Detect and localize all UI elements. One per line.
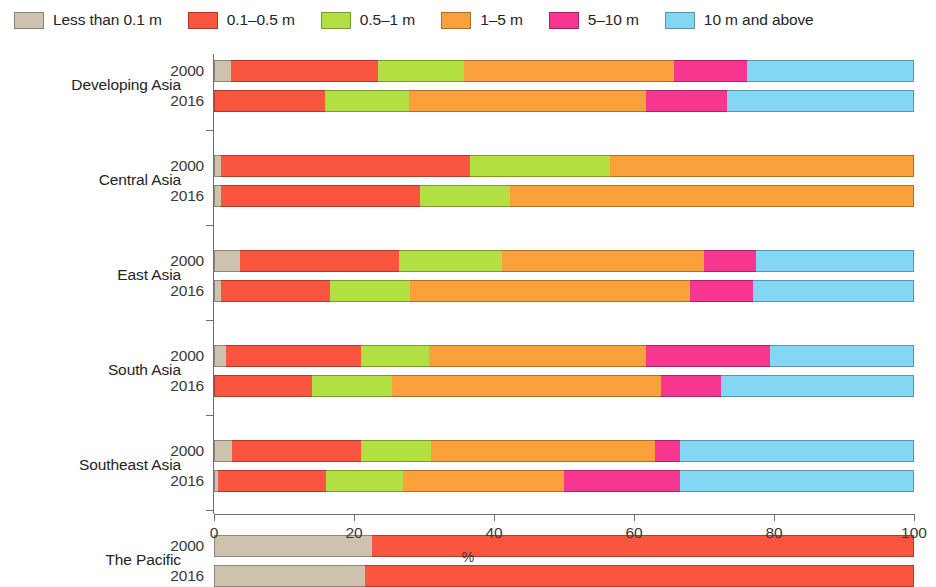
bar-segment[interactable] — [429, 345, 646, 367]
stacked-bar[interactable] — [214, 440, 914, 462]
bar-segment[interactable] — [214, 60, 231, 82]
legend-item-label: 10 m and above — [704, 11, 814, 29]
year-label: 2016 — [158, 187, 204, 205]
legend-swatch-icon — [14, 12, 44, 29]
bar-segment[interactable] — [221, 155, 470, 177]
x-axis-line — [214, 514, 915, 515]
bar-segment[interactable] — [661, 375, 721, 397]
legend-swatch-icon — [549, 12, 579, 29]
stacked-bar[interactable] — [214, 185, 914, 207]
bar-segment[interactable] — [646, 345, 770, 367]
y-axis-tick — [206, 510, 213, 511]
bar-segment[interactable] — [218, 470, 327, 492]
legend-item[interactable]: 10 m and above — [665, 11, 814, 29]
bar-segment[interactable] — [403, 470, 564, 492]
bar-segment[interactable] — [221, 185, 420, 207]
bar-segment[interactable] — [564, 470, 680, 492]
x-axis-tick — [634, 514, 635, 521]
stacked-bar[interactable] — [214, 90, 914, 112]
bar-segment[interactable] — [674, 60, 747, 82]
x-axis-tick-label: 60 — [604, 524, 664, 542]
bar-segment[interactable] — [420, 185, 510, 207]
y-axis-tick — [206, 415, 213, 416]
bar-segment[interactable] — [231, 60, 378, 82]
bar-segment[interactable] — [214, 565, 365, 587]
chart-legend: Less than 0.1 m0.1–0.5 m0.5–1 m1–5 m5–10… — [0, 0, 936, 40]
stacked-bar[interactable] — [214, 470, 914, 492]
bar-segment[interactable] — [470, 155, 611, 177]
bar-segment[interactable] — [214, 155, 221, 177]
bar-segment[interactable] — [392, 375, 662, 397]
bar-segment[interactable] — [226, 345, 361, 367]
bar-segment[interactable] — [431, 440, 655, 462]
bar-segment[interactable] — [326, 470, 403, 492]
bar-segment[interactable] — [214, 185, 221, 207]
stacked-bar[interactable] — [214, 250, 914, 272]
bar-segment[interactable] — [770, 345, 914, 367]
region-label: Developing Asia — [71, 76, 181, 94]
bar-segment[interactable] — [756, 250, 914, 272]
bar-segment[interactable] — [727, 90, 914, 112]
bar-segment[interactable] — [325, 90, 409, 112]
bar-segment[interactable] — [680, 470, 915, 492]
bar-segment[interactable] — [704, 250, 756, 272]
bar-segment[interactable] — [409, 90, 646, 112]
bar-segment[interactable] — [747, 60, 914, 82]
bar-segment[interactable] — [680, 440, 915, 462]
legend-item-label: 0.1–0.5 m — [227, 11, 295, 29]
x-axis-tick-label: 20 — [324, 524, 384, 542]
chart-plot-area: 020406080100 % 20002016Developing Asia20… — [0, 40, 936, 565]
bar-segment[interactable] — [510, 185, 914, 207]
bar-segment[interactable] — [610, 155, 914, 177]
bar-segment[interactable] — [753, 280, 914, 302]
legend-item[interactable]: Less than 0.1 m — [14, 11, 162, 29]
bar-segment[interactable] — [378, 60, 464, 82]
bar-segment[interactable] — [502, 250, 704, 272]
legend-item[interactable]: 5–10 m — [549, 11, 639, 29]
bar-segment[interactable] — [721, 375, 914, 397]
stacked-bar[interactable] — [214, 280, 914, 302]
x-axis-tick-label: 40 — [464, 524, 524, 542]
bar-segment[interactable] — [214, 280, 221, 302]
bar-segment[interactable] — [361, 440, 431, 462]
year-label: 2016 — [158, 567, 204, 585]
bar-segment[interactable] — [312, 375, 392, 397]
stacked-bar[interactable] — [214, 155, 914, 177]
legend-swatch-icon — [665, 12, 695, 29]
legend-item-label: Less than 0.1 m — [53, 11, 162, 29]
legend-swatch-icon — [188, 12, 218, 29]
bar-segment[interactable] — [690, 280, 753, 302]
year-label: 2016 — [158, 282, 204, 300]
legend-item[interactable]: 0.5–1 m — [321, 11, 415, 29]
x-axis-tick-label: 100 — [884, 524, 936, 542]
bar-segment[interactable] — [214, 375, 312, 397]
region-label: South Asia — [108, 361, 181, 379]
region-label: Southeast Asia — [79, 456, 181, 474]
legend-item-label: 1–5 m — [480, 11, 523, 29]
legend-swatch-icon — [441, 12, 471, 29]
bar-segment[interactable] — [214, 90, 325, 112]
stacked-bar[interactable] — [214, 345, 914, 367]
bar-segment[interactable] — [330, 280, 411, 302]
legend-item-label: 5–10 m — [588, 11, 639, 29]
bar-segment[interactable] — [365, 565, 915, 587]
bar-segment[interactable] — [221, 280, 330, 302]
stacked-bar[interactable] — [214, 60, 914, 82]
bar-segment[interactable] — [646, 90, 727, 112]
bar-segment[interactable] — [232, 440, 362, 462]
legend-item[interactable]: 1–5 m — [441, 11, 523, 29]
bar-segment[interactable] — [240, 250, 400, 272]
bar-segment[interactable] — [214, 440, 232, 462]
bar-segment[interactable] — [361, 345, 429, 367]
stacked-bar[interactable] — [214, 565, 914, 587]
legend-item[interactable]: 0.1–0.5 m — [188, 11, 295, 29]
bar-segment[interactable] — [464, 60, 674, 82]
y-axis-tick — [206, 130, 213, 131]
bar-segment[interactable] — [214, 250, 240, 272]
bar-segment[interactable] — [399, 250, 501, 272]
stacked-bar[interactable] — [214, 375, 914, 397]
x-axis-tick-label: 80 — [744, 524, 804, 542]
bar-segment[interactable] — [655, 440, 680, 462]
bar-segment[interactable] — [410, 280, 690, 302]
bar-segment[interactable] — [214, 345, 226, 367]
